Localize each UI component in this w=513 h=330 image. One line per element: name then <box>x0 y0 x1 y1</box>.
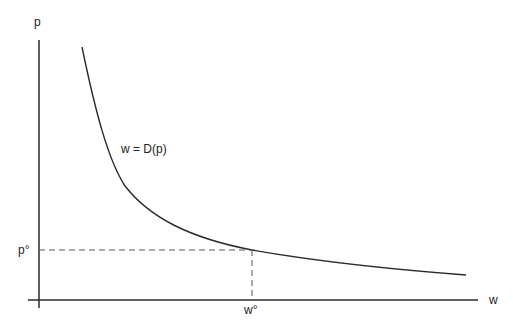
curve-label: w = D(p) <box>121 142 167 156</box>
w-star-label: w° <box>244 303 257 317</box>
demand-diagram <box>0 0 513 330</box>
y-axis-label: p <box>34 15 41 29</box>
x-axis-label: w <box>489 293 498 307</box>
demand-curve <box>82 47 466 275</box>
p-star-label: p° <box>18 243 29 257</box>
